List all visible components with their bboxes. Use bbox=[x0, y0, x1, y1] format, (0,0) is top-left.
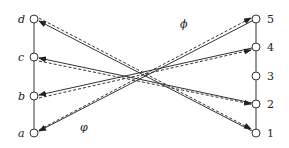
right-nodes: 5 4 3 2 1 bbox=[252, 13, 274, 140]
label-c: c bbox=[18, 51, 24, 64]
left-nodes: d c b a bbox=[18, 13, 38, 140]
label-5: 5 bbox=[267, 13, 274, 26]
phi-upper-label: ϕ bbox=[180, 18, 188, 31]
node-3 bbox=[252, 72, 260, 80]
mapping-diagram: d c b a 5 4 3 2 1 ϕ φ bbox=[0, 0, 289, 148]
node-5 bbox=[252, 15, 260, 23]
label-d: d bbox=[18, 13, 25, 26]
solid-arrows bbox=[39, 21, 252, 131]
node-4 bbox=[252, 43, 260, 51]
node-a bbox=[30, 129, 38, 137]
label-a: a bbox=[18, 127, 25, 140]
label-b: b bbox=[18, 90, 25, 103]
label-1: 1 bbox=[267, 127, 274, 140]
label-4: 4 bbox=[267, 41, 274, 54]
node-d bbox=[30, 15, 38, 23]
node-b bbox=[30, 92, 38, 100]
dashed-arrows bbox=[39, 18, 251, 130]
node-c bbox=[30, 53, 38, 61]
node-1 bbox=[252, 129, 260, 137]
label-2: 2 bbox=[267, 98, 274, 111]
label-3: 3 bbox=[267, 70, 274, 83]
node-2 bbox=[252, 100, 260, 108]
phi-lower-label: φ bbox=[80, 121, 88, 134]
